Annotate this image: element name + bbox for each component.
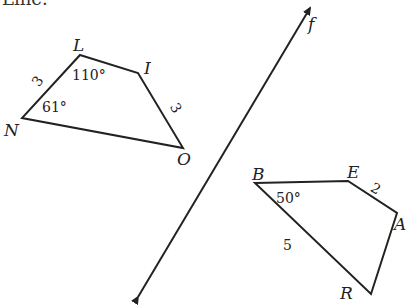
side-br-length: 5 xyxy=(283,237,292,253)
line-f-label: f xyxy=(306,14,317,34)
vertex-label-i: I xyxy=(143,58,151,78)
angle-n-measure: 61° xyxy=(42,99,67,115)
diagram-canvas: f L I O N 110° 61° 3 3 B E A R 50° 2 5 xyxy=(0,0,415,307)
vertex-label-a: A xyxy=(392,214,406,234)
vertex-label-o: O xyxy=(177,149,191,169)
vertex-label-l: L xyxy=(72,35,84,55)
angle-l-measure: 110° xyxy=(72,67,106,83)
line-f xyxy=(138,8,310,297)
vertex-label-r: R xyxy=(339,283,353,303)
vertex-label-b: B xyxy=(251,164,265,184)
side-ln-length: 3 xyxy=(28,73,46,89)
vertex-label-e: E xyxy=(346,162,360,182)
vertex-label-n: N xyxy=(3,120,20,140)
side-io-length: 3 xyxy=(167,100,185,116)
angle-b-measure: 50° xyxy=(276,190,301,206)
